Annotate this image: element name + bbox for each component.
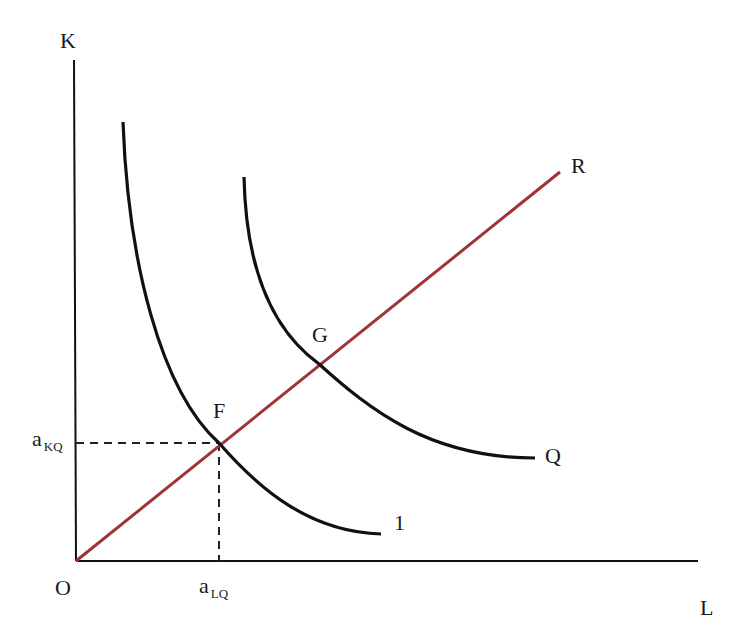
y-axis (74, 60, 76, 561)
ray-label: R (571, 155, 586, 177)
ray-OR (76, 172, 560, 561)
isoquant-curve-1 (123, 122, 381, 534)
y-tick-label-aKQ: aKQ (32, 428, 63, 450)
y-tick-sub: KQ (44, 439, 63, 454)
origin-label: O (55, 577, 71, 599)
point-label-F: F (213, 400, 225, 422)
x-axis-label: L (700, 597, 713, 619)
curve-label-Q: Q (545, 445, 561, 467)
isoquant-diagram (0, 0, 734, 630)
x-tick-label-aLQ: aLQ (199, 575, 228, 597)
isoquant-curve-Q (244, 177, 535, 458)
point-label-G: G (312, 324, 328, 346)
y-axis-label: K (60, 30, 76, 52)
x-tick-sub: LQ (211, 586, 228, 601)
y-tick-main: a (32, 426, 42, 451)
x-tick-main: a (199, 573, 209, 598)
curve-label-1: 1 (394, 512, 405, 534)
